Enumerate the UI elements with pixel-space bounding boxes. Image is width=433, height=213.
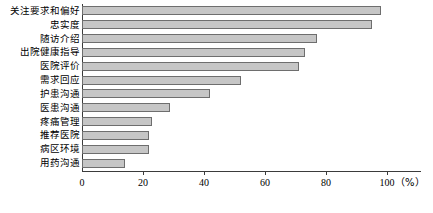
category-label: 疼痛管理 (2, 117, 80, 127)
category-label: 病区环境 (2, 144, 80, 154)
bar-chart: 关注要求和偏好忠实度随访介绍出院健康指导医院评价需求回应护患沟通医患沟通疼痛管理… (0, 0, 433, 213)
x-tick-mark (265, 171, 266, 175)
bar-2 (82, 20, 372, 29)
bar-fill (82, 89, 210, 98)
bar-9 (82, 117, 152, 126)
x-tick-mark (143, 171, 144, 175)
bar-4 (82, 48, 305, 57)
bar-fill (82, 145, 149, 154)
category-label: 医院评价 (2, 61, 80, 71)
bar-3 (82, 34, 317, 43)
category-label: 出院健康指导 (2, 47, 80, 57)
bar-fill (82, 48, 305, 57)
x-tick-label: 0 (80, 177, 85, 189)
bar-12 (82, 159, 125, 168)
x-tick-mark (204, 171, 205, 175)
x-tick-label: 80 (321, 177, 331, 189)
bar-fill (82, 20, 372, 29)
bar-fill (82, 131, 149, 140)
category-label: 护患沟通 (2, 89, 80, 99)
plot-area (82, 4, 387, 170)
bar-7 (82, 89, 210, 98)
x-tick-mark (326, 171, 327, 175)
category-label: 随访介绍 (2, 34, 80, 44)
x-axis-line (82, 171, 421, 172)
category-label: 用药沟通 (2, 158, 80, 168)
bar-fill (82, 76, 241, 85)
bar-6 (82, 76, 241, 85)
x-tick-mark (387, 171, 388, 175)
bar-fill (82, 159, 125, 168)
bar-fill (82, 103, 170, 112)
bar-fill (82, 117, 152, 126)
category-label: 医患沟通 (2, 103, 80, 113)
x-tick-label: 20 (138, 177, 148, 189)
category-label: 关注要求和偏好 (2, 6, 80, 16)
bar-5 (82, 62, 299, 71)
bar-11 (82, 145, 149, 154)
bar-fill (82, 34, 317, 43)
x-tick-label: 100 (380, 177, 395, 189)
bar-8 (82, 103, 170, 112)
category-axis-labels: 关注要求和偏好忠实度随访介绍出院健康指导医院评价需求回应护患沟通医患沟通疼痛管理… (0, 4, 80, 171)
bar-fill (82, 62, 299, 71)
x-tick-label: 60 (260, 177, 270, 189)
category-label: 忠实度 (2, 20, 80, 30)
category-label: 推荐医院 (2, 130, 80, 140)
bar-fill (82, 6, 381, 15)
category-label: 需求回应 (2, 75, 80, 85)
x-axis-unit-label: （%） (395, 177, 425, 189)
x-tick-label: 40 (199, 177, 209, 189)
bar-1 (82, 6, 381, 15)
bar-10 (82, 131, 149, 140)
